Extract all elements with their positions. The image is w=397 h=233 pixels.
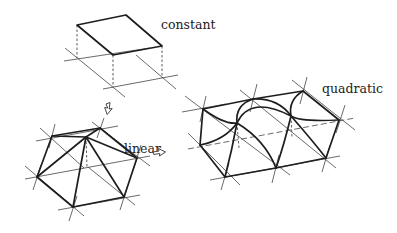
linear-edge (73, 137, 86, 207)
quadratic-curve (203, 109, 237, 123)
grid-tick (69, 196, 77, 221)
arrow-down-icon (105, 103, 113, 115)
grid-line (136, 55, 176, 89)
linear-panel: linear (25, 118, 161, 221)
constant-surface (77, 15, 162, 55)
quadratic-panel: quadratic (182, 77, 383, 190)
quadratic-curve (291, 91, 304, 116)
linear-edge (52, 136, 86, 137)
quadratic-curve (291, 116, 326, 158)
quadratic-curve (200, 123, 237, 145)
quadratic-curve (276, 116, 291, 168)
grid-line (103, 75, 178, 89)
projection-line (86, 137, 87, 167)
quadratic-curve (291, 116, 339, 121)
quadratic-label: quadratic (322, 81, 383, 96)
constant-panel: constant (64, 15, 216, 97)
figure-canvas: constant linear (0, 0, 397, 233)
constant-label: constant (161, 17, 216, 32)
quadratic-curve (237, 123, 276, 168)
grid-line (65, 48, 125, 97)
projection-line (291, 116, 292, 138)
